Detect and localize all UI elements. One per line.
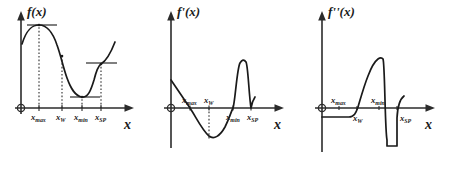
tick-label-xsp: xSP bbox=[94, 112, 107, 123]
tick-label-xmin-sub: min bbox=[230, 117, 240, 123]
tick-label-xmax-sub: max bbox=[335, 100, 346, 106]
tick-label-xmax: xmax bbox=[30, 112, 46, 123]
tick-label-xsp-sub: SP bbox=[251, 117, 258, 123]
tick-label-xw-sub: W bbox=[357, 118, 363, 124]
point-xsp bbox=[100, 63, 103, 66]
tick-label-xmin: xmin bbox=[225, 112, 240, 123]
y-axis-arrowhead bbox=[167, 11, 175, 21]
tick-label-xsp: xSP bbox=[246, 112, 259, 123]
panel-f-double-prime-svg: f''(x) x xmax xW xmin xSP bbox=[301, 0, 452, 170]
y-axis-arrowhead bbox=[17, 11, 25, 21]
x-axis-arrowhead bbox=[125, 104, 135, 112]
x-axis-label-f: x bbox=[123, 117, 131, 132]
tick-label-xw-sub: W bbox=[60, 117, 66, 123]
tick-label-xmax-sub: max bbox=[35, 117, 46, 123]
panel-title-f-prime: f'(x) bbox=[177, 4, 200, 19]
panel-title-f: f(x) bbox=[27, 4, 47, 19]
tick-label-xmin: xmin bbox=[370, 95, 385, 106]
point-xw bbox=[61, 55, 64, 58]
tick-label-xmax: xmax bbox=[330, 95, 346, 106]
tick-label-xmax: xmax bbox=[181, 95, 197, 106]
panel-title-f-double-prime: f''(x) bbox=[328, 4, 355, 19]
x-axis-label-f-double-prime: x bbox=[424, 117, 432, 132]
panel-f-prime-of-x: f'(x) x xmax xW xmin xSP bbox=[150, 0, 301, 170]
tick-label-xw: xW bbox=[55, 112, 66, 123]
point-xmin bbox=[81, 96, 84, 99]
x-axis-arrowhead bbox=[426, 104, 436, 112]
tick-label-xsp-sub: SP bbox=[404, 118, 411, 124]
tick-label-xmin-sub: min bbox=[375, 100, 385, 106]
tick-label-xmin-sub: min bbox=[78, 117, 88, 123]
tick-label-xw-sub: W bbox=[208, 100, 214, 106]
panel-f-of-x: f(x) x xmax xW xmin xSP bbox=[0, 0, 151, 170]
point-xmax bbox=[38, 24, 41, 27]
tick-label-xsp-sub: SP bbox=[99, 117, 106, 123]
tick-label-xmax-sub: max bbox=[186, 100, 197, 106]
tick-label-xw: xW bbox=[203, 95, 214, 106]
tick-label-xmin: xmin bbox=[73, 112, 88, 123]
y-axis-arrowhead bbox=[318, 11, 326, 21]
panel-f-double-prime-of-x: f''(x) x xmax xW xmin xSP bbox=[301, 0, 452, 170]
tick-label-xsp: xSP bbox=[399, 113, 412, 124]
tick-label-xw: xW bbox=[352, 113, 363, 124]
x-axis-label-f-prime: x bbox=[273, 117, 281, 132]
panel-f-prime-svg: f'(x) x xmax xW xmin xSP bbox=[150, 0, 301, 170]
panel-f-svg: f(x) x xmax xW xmin xSP bbox=[0, 0, 151, 170]
x-axis-arrowhead bbox=[275, 104, 285, 112]
curve-discussion-figure: f(x) x xmax xW xmin xSP f'(x) x xm bbox=[0, 0, 452, 170]
